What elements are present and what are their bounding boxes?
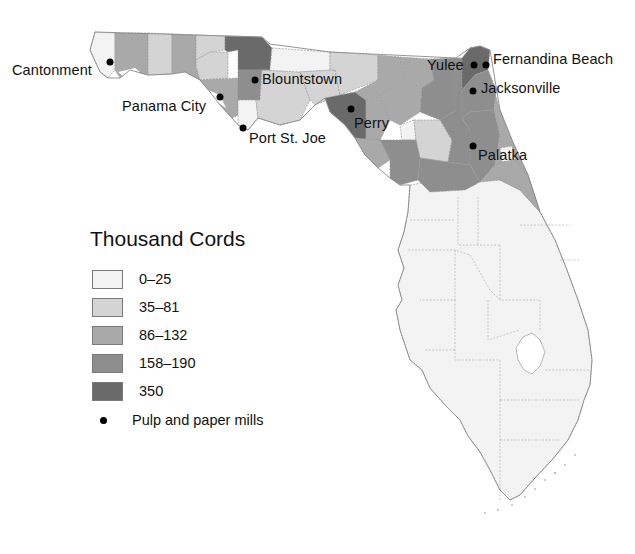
legend-item-158-190: 158–190 bbox=[92, 352, 195, 374]
legend-swatch bbox=[92, 354, 123, 373]
mill-dot-yulee bbox=[471, 62, 478, 69]
city-label-blountstown: Blountstown bbox=[262, 72, 342, 87]
city-label-yulee: Yulee bbox=[427, 58, 464, 73]
city-label-fernandina-beach: Fernandina Beach bbox=[493, 52, 613, 67]
city-label-port-st-joe: Port St. Joe bbox=[249, 131, 326, 146]
legend-label: 86–132 bbox=[139, 328, 187, 343]
legend-swatch bbox=[92, 382, 123, 401]
legend-item-86-132: 86–132 bbox=[92, 324, 187, 346]
legend-label: 35–81 bbox=[139, 300, 179, 315]
city-label-cantonment: Cantonment bbox=[12, 63, 92, 78]
mill-dot-port-st-joe bbox=[240, 125, 247, 132]
mill-dot-cantonment bbox=[107, 59, 114, 66]
legend-title: Thousand Cords bbox=[90, 228, 245, 249]
legend-swatch bbox=[92, 326, 123, 345]
city-label-perry: Perry bbox=[354, 116, 389, 131]
mill-dot-blountstown bbox=[252, 77, 259, 84]
legend-item-0-25: 0–25 bbox=[92, 268, 171, 290]
mill-dot-palatka bbox=[470, 143, 477, 150]
legend-swatch bbox=[92, 298, 123, 317]
city-label-jacksonville: Jacksonville bbox=[481, 81, 560, 96]
county-region-south-peninsula bbox=[396, 178, 592, 500]
county-jackson bbox=[225, 36, 272, 70]
mill-dot-fernandina-beach bbox=[483, 62, 490, 69]
legend-label: Pulp and paper mills bbox=[132, 413, 263, 428]
mill-dot-panama-city bbox=[217, 94, 224, 101]
mill-dot-perry bbox=[348, 106, 355, 113]
county-calhoun bbox=[238, 70, 262, 100]
legend-item-mills: Pulp and paper mills bbox=[100, 410, 263, 430]
county-escambia bbox=[90, 32, 115, 78]
legend-label: 0–25 bbox=[139, 272, 171, 287]
mill-dot-icon bbox=[100, 417, 107, 424]
mill-dot-jacksonville bbox=[470, 88, 477, 95]
county-okaloosa bbox=[148, 33, 172, 75]
city-label-palatka: Palatka bbox=[478, 148, 527, 163]
city-label-panama-city: Panama City bbox=[122, 99, 206, 114]
legend-label: 350 bbox=[139, 384, 163, 399]
legend-swatch bbox=[92, 270, 123, 289]
county-gadsden-leon bbox=[262, 48, 330, 72]
legend-item-35-81: 35–81 bbox=[92, 296, 179, 318]
legend-item-350: 350 bbox=[92, 380, 163, 402]
legend-label: 158–190 bbox=[139, 356, 195, 371]
